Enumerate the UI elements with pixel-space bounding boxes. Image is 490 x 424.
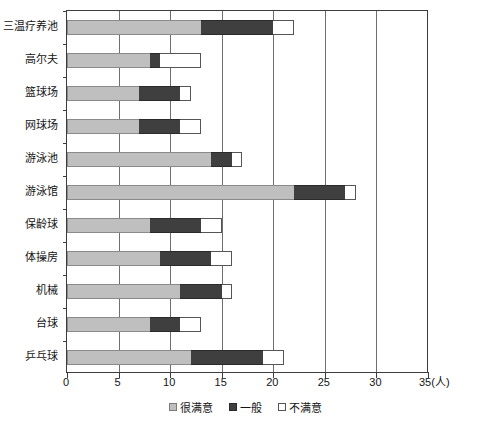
x-axis-tick-label-30: 30 (369, 376, 381, 388)
legend-item-很满意[interactable]: 很满意 (169, 399, 213, 415)
y-axis-label: 保龄球 (25, 219, 58, 230)
legend-swatch-icon (278, 403, 286, 411)
bar-segment-不满意[interactable] (222, 284, 232, 299)
y-axis-label: 台球 (36, 318, 58, 329)
y-axis-labels: 三温疗养池高尔夫篮球场网球场游泳池游泳馆保龄球体操房机械台球乒乓球 (0, 10, 62, 373)
y-axis-label: 游泳池 (25, 153, 58, 164)
legend-item-一般[interactable]: 一般 (229, 399, 262, 415)
bar-segment-很满意[interactable] (67, 20, 201, 35)
bar-segment-很满意[interactable] (67, 350, 191, 365)
y-tick-0 (63, 11, 67, 12)
y-tick-9 (63, 308, 67, 309)
bar-segment-很满意[interactable] (67, 317, 150, 332)
chart-container: 三温疗养池高尔夫篮球场网球场游泳池游泳馆保龄球体操房机械台球乒乓球 051015… (0, 0, 490, 424)
bar-segment-一般[interactable] (211, 152, 232, 167)
y-axis-label: 网球场 (25, 120, 58, 131)
plot-area (66, 10, 428, 373)
bar-segment-不满意[interactable] (160, 53, 201, 68)
bar-segment-不满意[interactable] (211, 251, 232, 266)
legend-swatch-icon (169, 403, 177, 411)
y-axis-label: 三温疗养池 (3, 21, 58, 32)
y-tick-5 (63, 176, 67, 177)
y-tick-8 (63, 275, 67, 276)
y-axis-label: 体操房 (25, 252, 58, 263)
bar-segment-很满意[interactable] (67, 251, 160, 266)
y-tick-7 (63, 242, 67, 243)
bar-segment-一般[interactable] (150, 53, 160, 68)
bar-segment-不满意[interactable] (273, 20, 294, 35)
y-tick-1 (63, 44, 67, 45)
y-tick-2 (63, 77, 67, 78)
y-tick-6 (63, 209, 67, 210)
y-tick-10 (63, 341, 67, 342)
bar-segment-一般[interactable] (294, 185, 346, 200)
bar-row[interactable] (67, 218, 222, 233)
bar-segment-不满意[interactable] (345, 185, 355, 200)
y-axis-label: 篮球场 (25, 87, 58, 98)
bar-segment-一般[interactable] (160, 251, 212, 266)
bar-row[interactable] (67, 185, 356, 200)
legend-label: 很满意 (180, 399, 213, 415)
bar-row[interactable] (67, 284, 232, 299)
bar-segment-一般[interactable] (201, 20, 273, 35)
chart-legend: 很满意一般不满意 (0, 399, 490, 415)
x-axis-tick-label-15: 15 (215, 376, 227, 388)
bar-segment-一般[interactable] (150, 218, 202, 233)
legend-swatch-icon (229, 403, 237, 411)
bar-segment-不满意[interactable] (232, 152, 242, 167)
gridline-30 (376, 11, 377, 372)
y-axis-label: 乒乓球 (25, 351, 58, 362)
bar-row[interactable] (67, 119, 201, 134)
bar-row[interactable] (67, 317, 201, 332)
y-axis-label: 机械 (36, 285, 58, 296)
x-axis-tick-label-10: 10 (163, 376, 175, 388)
bar-segment-很满意[interactable] (67, 185, 294, 200)
bar-row[interactable] (67, 350, 284, 365)
bar-segment-很满意[interactable] (67, 152, 211, 167)
bar-row[interactable] (67, 152, 242, 167)
bar-segment-一般[interactable] (191, 350, 263, 365)
bar-row[interactable] (67, 53, 201, 68)
bar-segment-不满意[interactable] (180, 119, 201, 134)
x-axis-tick-label-5: 5 (115, 376, 121, 388)
bar-segment-不满意[interactable] (180, 317, 201, 332)
bar-segment-一般[interactable] (150, 317, 181, 332)
x-axis-tick-label-20: 20 (266, 376, 278, 388)
bar-segment-一般[interactable] (180, 284, 221, 299)
bar-segment-不满意[interactable] (180, 86, 190, 101)
x-axis-labels: 05101520253035(人) (0, 376, 490, 392)
bar-row[interactable] (67, 20, 294, 35)
y-axis-label: 高尔夫 (25, 54, 58, 65)
bar-row[interactable] (67, 86, 191, 101)
y-tick-3 (63, 110, 67, 111)
y-tick-4 (63, 143, 67, 144)
y-axis-label: 游泳馆 (25, 186, 58, 197)
x-axis-tick-label-0: 0 (63, 376, 69, 388)
legend-item-不满意[interactable]: 不满意 (278, 399, 322, 415)
legend-label: 不满意 (289, 399, 322, 415)
bar-segment-很满意[interactable] (67, 119, 139, 134)
bar-segment-很满意[interactable] (67, 86, 139, 101)
bar-segment-一般[interactable] (139, 86, 180, 101)
legend-label: 一般 (240, 399, 262, 415)
x-axis-tick-label-25: 25 (318, 376, 330, 388)
bar-segment-很满意[interactable] (67, 284, 180, 299)
bar-segment-很满意[interactable] (67, 53, 150, 68)
bar-segment-很满意[interactable] (67, 218, 150, 233)
bar-segment-一般[interactable] (139, 119, 180, 134)
bar-segment-不满意[interactable] (201, 218, 222, 233)
bar-segment-不满意[interactable] (263, 350, 284, 365)
bar-row[interactable] (67, 251, 232, 266)
x-axis-tick-label-35: 35(人) (419, 376, 450, 388)
